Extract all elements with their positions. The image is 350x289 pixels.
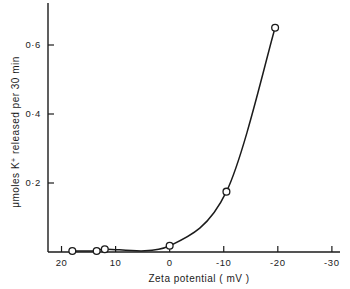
x-tick-label: 20 [56,257,68,268]
x-tick-label: 10 [110,257,122,268]
y-tick-label: 0·4 [25,108,41,119]
y-axis-title-text: μmoles K+ released per 30 min [10,56,22,208]
data-point-marker[interactable] [166,242,173,249]
x-tick-label: 0 [167,257,173,268]
data-point-marker[interactable] [93,248,100,255]
x-tick-label: -30 [324,257,340,268]
x-tick-label: -10 [216,257,232,268]
y-axis-title: μmoles K+ released per 30 min [10,56,22,208]
data-point-marker[interactable] [101,246,108,253]
y-tick-label: 0·6 [25,39,41,50]
zeta-potential-line-chart: 0·20·40·620100-10-20-30Zeta potential ( … [0,0,350,289]
x-tick-label: -20 [270,257,286,268]
y-tick-label: 0·2 [25,177,41,188]
data-point-marker[interactable] [223,188,230,195]
x-axis-title: Zeta potential ( mV ) [148,273,249,284]
figure-panel: 0·20·40·620100-10-20-30Zeta potential ( … [0,0,350,289]
data-point-marker[interactable] [272,24,279,31]
data-point-marker[interactable] [69,248,76,255]
data-curve [72,28,275,251]
